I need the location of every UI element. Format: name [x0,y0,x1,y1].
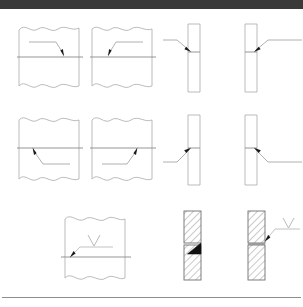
diagram-plate-vertical-joint-arrow-from-left [163,20,229,95]
diagram-hatched-plate-with-leader-and-weld-symbol [245,209,303,283]
break-line-bottom [19,177,79,181]
diagram-plate-horizontal-joint-arrow-right [17,20,83,95]
figure-cell-r2c3 [163,110,229,190]
plate-section-lower [248,245,265,280]
diagram-plate-horizontal-joint-with-weld-symbol [61,205,131,283]
diagram-plate-horizontal-joint-arrow-up-right [90,110,156,190]
break-line-bottom [19,84,79,88]
v-groove-weld-symbol [283,218,294,228]
figure-cell-r2c4 [236,110,302,190]
figure-cell-r3c2 [181,209,229,283]
break-line-top [19,118,79,122]
break-line-bottom [92,84,152,88]
figure-cell-r1c1 [17,20,83,95]
break-line-top [19,27,79,30]
diagram-plate-horizontal-joint-arrow-up-left [17,110,83,190]
diagram-plate-vertical-joint-arrow-up-from-left [163,110,229,190]
diagram-plate-horizontal-joint-arrow-left [90,20,156,95]
figure-cell-r1c3 [163,20,229,95]
break-line-top [92,27,152,30]
plate-section-upper [248,211,265,243]
break-line-bottom [92,177,152,181]
break-line-bottom [65,276,125,280]
page-bottom-rule [2,297,301,298]
diagram-hatched-plate-with-filled-weld [181,209,229,283]
figure-cell-r1c4 [236,20,302,95]
break-line-top [65,217,125,221]
diagram-plate-vertical-joint-arrow-up-from-right [236,110,302,190]
figure-cell-r3c1 [61,205,131,283]
document-sheet [0,9,303,307]
diagram-plate-vertical-joint-arrow-from-right [236,20,302,95]
break-line-top [92,118,152,122]
figure-cell-r1c2 [90,20,156,95]
v-groove-weld-symbol [88,235,100,246]
document-page [0,0,303,307]
figure-cell-r2c2 [90,110,156,190]
figure-cell-r3c3 [245,209,303,283]
plate-section-upper [184,211,201,243]
figure-cell-r2c1 [17,110,83,190]
